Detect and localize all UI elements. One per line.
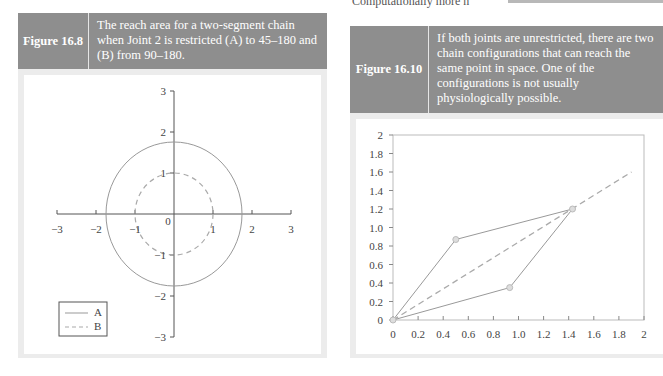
svg-text:1.2: 1.2: [537, 328, 551, 340]
svg-text:0.2: 0.2: [369, 296, 383, 308]
svg-text:1.2: 1.2: [369, 203, 383, 215]
svg-text:0.4: 0.4: [436, 328, 450, 340]
legend-label-b: B: [94, 320, 101, 332]
joint-marker: [390, 317, 396, 323]
svg-text:1.0: 1.0: [512, 328, 526, 340]
svg-text:−3: −3: [154, 331, 166, 343]
svg-text:0: 0: [165, 215, 171, 227]
svg-text:0: 0: [378, 314, 384, 326]
svg-text:0.4: 0.4: [369, 277, 383, 289]
svg-text:−1: −1: [154, 249, 166, 261]
svg-text:2: 2: [249, 223, 255, 235]
svg-text:1: 1: [161, 167, 167, 179]
joint-marker: [507, 285, 513, 291]
svg-text:0.2: 0.2: [411, 328, 425, 340]
svg-text:−2: −2: [90, 223, 102, 235]
endpoint-marker: [570, 206, 576, 212]
figure-16-10-chart: 2 1.8 1.6 1.4 1.2 1.0 0.8 0.6 0.4 0.2 0 …: [356, 119, 663, 354]
page-fragment-text: Computationally more n: [352, 0, 469, 9]
svg-text:1.0: 1.0: [369, 222, 383, 234]
svg-text:1: 1: [210, 223, 216, 235]
figure-16-8-label: Figure 16.8: [18, 13, 89, 69]
svg-text:3: 3: [288, 223, 294, 235]
svg-text:0.8: 0.8: [487, 328, 501, 340]
figure-16-10-label: Figure 16.10: [350, 26, 429, 113]
svg-text:3: 3: [161, 85, 167, 97]
svg-text:−3: −3: [51, 223, 63, 235]
svg-text:2: 2: [161, 126, 167, 138]
decorative-bar: [508, 0, 663, 3]
svg-text:1.4: 1.4: [562, 328, 576, 340]
legend-label-a: A: [94, 306, 102, 318]
svg-text:0.6: 0.6: [369, 259, 383, 271]
joint-marker: [453, 237, 459, 243]
svg-text:1.8: 1.8: [612, 328, 626, 340]
svg-text:−1: −1: [129, 223, 141, 235]
figure-16-8-chart: −3 −2 −1 1 2 3 0 3 2 1 −1 −2 −3: [24, 75, 321, 354]
figure-16-10-caption: If both joints are unrestricted, there a…: [429, 26, 663, 113]
svg-text:2: 2: [641, 328, 647, 340]
figure-16-8-panel: Figure 16.8 The reach area for a two-seg…: [18, 13, 327, 358]
reach-line: [393, 172, 632, 320]
svg-text:1.8: 1.8: [369, 148, 383, 160]
figure-16-8-caption: The reach area for a two-segment chain w…: [89, 13, 327, 69]
figure-16-10-plot-area: 2 1.8 1.6 1.4 1.2 1.0 0.8 0.6 0.4 0.2 0 …: [356, 119, 663, 354]
svg-text:1.6: 1.6: [587, 328, 601, 340]
svg-text:0.6: 0.6: [461, 328, 475, 340]
svg-text:0: 0: [390, 328, 396, 340]
figure-16-8-plot-area: −3 −2 −1 1 2 3 0 3 2 1 −1 −2 −3: [24, 75, 321, 354]
figure-16-10-header: Figure 16.10 If both joints are unrestri…: [350, 26, 663, 113]
svg-text:1.6: 1.6: [369, 166, 383, 178]
svg-text:1.4: 1.4: [369, 185, 383, 197]
svg-text:0.8: 0.8: [369, 240, 383, 252]
svg-text:2: 2: [378, 129, 384, 141]
figure-16-10-panel: Figure 16.10 If both joints are unrestri…: [350, 26, 663, 358]
svg-text:−2: −2: [154, 290, 166, 302]
figure-16-8-header: Figure 16.8 The reach area for a two-seg…: [18, 13, 327, 69]
